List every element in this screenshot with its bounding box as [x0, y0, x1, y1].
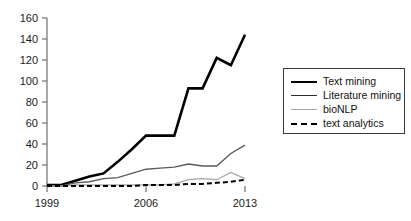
y-axis-tick-label: 160 — [20, 12, 38, 24]
y-axis-ticks — [42, 18, 47, 186]
chart-legend: Text mining Literature mining bioNLP tex… — [283, 68, 405, 134]
plot-area: 020406080100120140160 199920062013 — [0, 0, 270, 221]
line-chart-svg: 020406080100120140160 199920062013 — [0, 0, 270, 221]
y-axis-tick-label: 40 — [26, 138, 38, 150]
dashed-line-icon — [291, 117, 317, 129]
y-axis-tick-label: 80 — [26, 96, 38, 108]
legend-item-bionlp: bioNLP — [284, 102, 404, 116]
solid-medium-line-icon — [291, 89, 317, 101]
x-axis-tick-labels: 199920062013 — [35, 197, 257, 209]
y-axis-tick-label: 120 — [20, 54, 38, 66]
chart-container: 020406080100120140160 199920062013 Text … — [0, 0, 411, 221]
data-series-group — [47, 35, 245, 186]
y-axis-tick-label: 100 — [20, 75, 38, 87]
y-axis: 020406080100120140160 — [20, 12, 47, 192]
x-axis-tick-label: 2006 — [134, 197, 158, 209]
y-axis-tick-label: 20 — [26, 159, 38, 171]
x-axis-ticks — [47, 186, 245, 192]
y-axis-tick-label: 140 — [20, 33, 38, 45]
legend-label: Literature mining — [323, 89, 401, 101]
y-axis-tick-label: 0 — [32, 180, 38, 192]
x-axis: 199920062013 — [35, 186, 257, 209]
legend-item-literature-mining: Literature mining — [284, 88, 404, 102]
x-axis-tick-label: 1999 — [35, 197, 59, 209]
y-axis-tick-label: 60 — [26, 117, 38, 129]
legend-item-text-analytics: text analytics — [284, 116, 404, 130]
solid-thick-line-icon — [291, 75, 317, 87]
solid-light-line-icon — [291, 103, 317, 115]
legend-label: text analytics — [323, 117, 384, 129]
legend-item-text-mining: Text mining — [284, 74, 404, 88]
series-line-text-mining — [47, 35, 245, 185]
y-axis-tick-labels: 020406080100120140160 — [20, 12, 38, 192]
legend-label: Text mining — [323, 75, 376, 87]
x-axis-tick-label: 2013 — [233, 197, 257, 209]
legend-label: bioNLP — [323, 103, 357, 115]
